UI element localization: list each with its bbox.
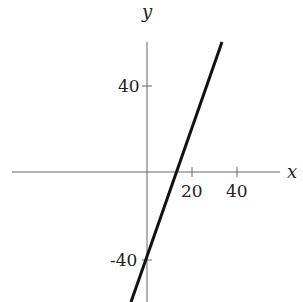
x-tick-label-20: 20 — [181, 181, 203, 201]
y-tick-label-40: 40 — [118, 76, 140, 96]
x-axis-label: x — [287, 161, 297, 182]
y-tick-label-neg40: -40 — [110, 250, 137, 270]
chart-canvas: 20 40 40 -40 x y — [0, 0, 303, 302]
x-tick-label-40: 40 — [226, 181, 248, 201]
y-axis-label: y — [141, 1, 153, 22]
